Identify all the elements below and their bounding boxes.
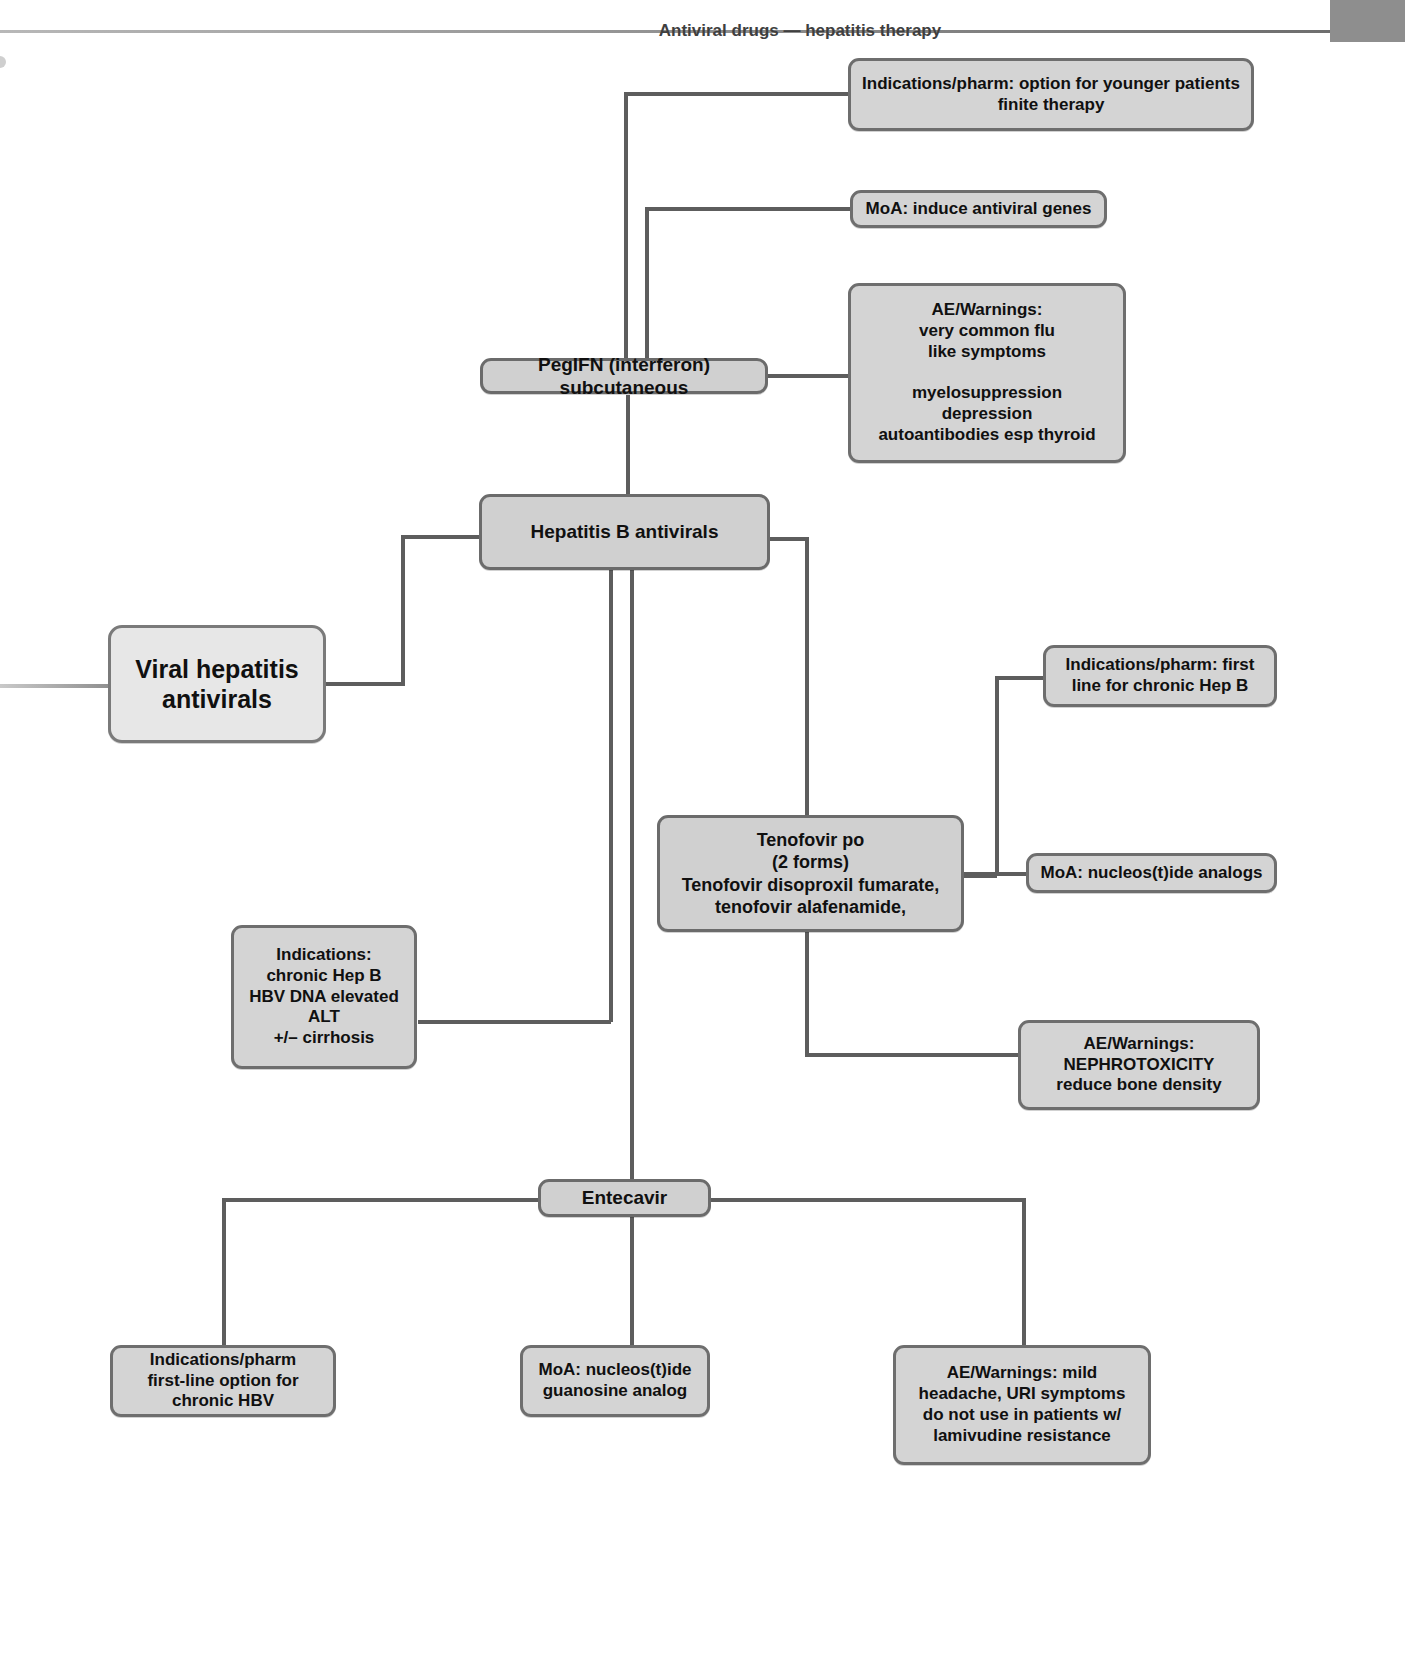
- node-label: Entecavir: [550, 1186, 699, 1209]
- node-label: AE/Warnings: mild headache, URI symptoms…: [905, 1363, 1139, 1447]
- node-label: Indications/pharm: first line for chroni…: [1055, 655, 1265, 697]
- node-label: MoA: induce antiviral genes: [862, 199, 1095, 220]
- connector-hepb-to-indications-v: [609, 570, 613, 1022]
- connector-entecavir-left-h: [222, 1198, 538, 1202]
- connector-tenofovir-to-ae-v: [805, 930, 809, 1055]
- node-label: MoA: nucleos(t)ide analogs: [1038, 863, 1265, 884]
- page-title: Antiviral drugs — hepatitis therapy: [420, 21, 1180, 41]
- header-origin-dot: [0, 56, 6, 68]
- connector-root-to-hepb-v: [401, 535, 405, 684]
- node-tenofovir-indications[interactable]: Indications/pharm: first line for chroni…: [1043, 645, 1277, 707]
- node-pegifn-moa[interactable]: MoA: induce antiviral genes: [850, 190, 1107, 228]
- node-label: MoA: nucleos(t)ide guanosine analog: [532, 1360, 698, 1402]
- node-label: Viral hepatitis antivirals: [120, 654, 314, 714]
- node-tenofovir[interactable]: Tenofovir po (2 forms) Tenofovir disopro…: [657, 815, 964, 932]
- connector-entecavir-left-v: [222, 1198, 226, 1350]
- node-pegifn-ae-warnings[interactable]: AE/Warnings: very common flu like sympto…: [848, 283, 1126, 463]
- connector-root-to-hepb-h2: [401, 535, 481, 539]
- connector-entecavir-right-h: [710, 1198, 1026, 1202]
- node-pegifn-indications[interactable]: Indications/pharm: option for younger pa…: [848, 58, 1254, 131]
- header-divider: Antiviral drugs — hepatitis therapy: [0, 30, 1330, 33]
- node-tenofovir-ae-warnings[interactable]: AE/Warnings: NEPHROTOXICITY reduce bone …: [1018, 1020, 1260, 1110]
- node-root-viral-hepatitis-antivirals[interactable]: Viral hepatitis antivirals: [108, 625, 326, 743]
- connector-pegifn-to-moa-v: [645, 207, 649, 367]
- node-label: Indications/pharm: option for younger pa…: [860, 74, 1242, 116]
- node-entecavir[interactable]: Entecavir: [538, 1179, 711, 1217]
- node-hepb-indications[interactable]: Indications: chronic Hep B HBV DNA eleva…: [231, 925, 417, 1069]
- connector-tenofovir-to-indications-v: [995, 676, 999, 876]
- connector-tenofovir-to-ae-h: [805, 1053, 1020, 1057]
- node-label: Tenofovir po (2 forms) Tenofovir disopro…: [669, 829, 952, 918]
- node-entecavir-moa[interactable]: MoA: nucleos(t)ide guanosine analog: [520, 1345, 710, 1417]
- node-label: AE/Warnings: very common flu like sympto…: [860, 300, 1114, 446]
- connector-tenofovir-to-moa: [963, 872, 1028, 876]
- node-hepatitis-b-antivirals[interactable]: Hepatitis B antivirals: [479, 494, 770, 570]
- connector-entecavir-mid-v: [630, 1215, 634, 1350]
- node-label: Indications: chronic Hep B HBV DNA eleva…: [243, 945, 405, 1050]
- node-pegifn[interactable]: PegIFN (interferon) subcutaneous: [480, 358, 768, 394]
- connector-root-to-hepb-h1: [325, 682, 405, 686]
- node-tenofovir-moa[interactable]: MoA: nucleos(t)ide analogs: [1026, 853, 1277, 893]
- connector-hepb-to-pegifn: [626, 395, 630, 495]
- node-entecavir-ae-warnings[interactable]: AE/Warnings: mild headache, URI symptoms…: [893, 1345, 1151, 1465]
- header-tab[interactable]: [1330, 0, 1405, 42]
- node-label: Indications/pharm first-line option for …: [122, 1350, 324, 1413]
- connector-hepb-to-entecavir: [630, 570, 634, 1180]
- connector-entecavir-right-v: [1022, 1198, 1026, 1350]
- connector-pegifn-to-moa-h: [645, 207, 852, 211]
- node-label: AE/Warnings: NEPHROTOXICITY reduce bone …: [1030, 1034, 1248, 1097]
- connector-pegifn-to-indications-v: [624, 92, 628, 360]
- node-label: PegIFN (interferon) subcutaneous: [492, 353, 756, 400]
- connector-hepb-to-indications-h: [418, 1020, 611, 1024]
- connector-hepb-to-tenofovir-v: [805, 537, 809, 812]
- node-entecavir-indications[interactable]: Indications/pharm first-line option for …: [110, 1345, 336, 1417]
- connector-hepb-to-tenofovir-h: [769, 537, 807, 541]
- connector-root-stub: [0, 684, 110, 688]
- mindmap-canvas: Antiviral drugs — hepatitis therapy Vir: [0, 0, 1405, 1665]
- connector-tenofovir-to-indications-h: [995, 676, 1045, 680]
- node-label: Hepatitis B antivirals: [491, 520, 758, 543]
- connector-pegifn-to-indications-h: [624, 92, 850, 96]
- connector-pegifn-to-ae: [767, 374, 850, 378]
